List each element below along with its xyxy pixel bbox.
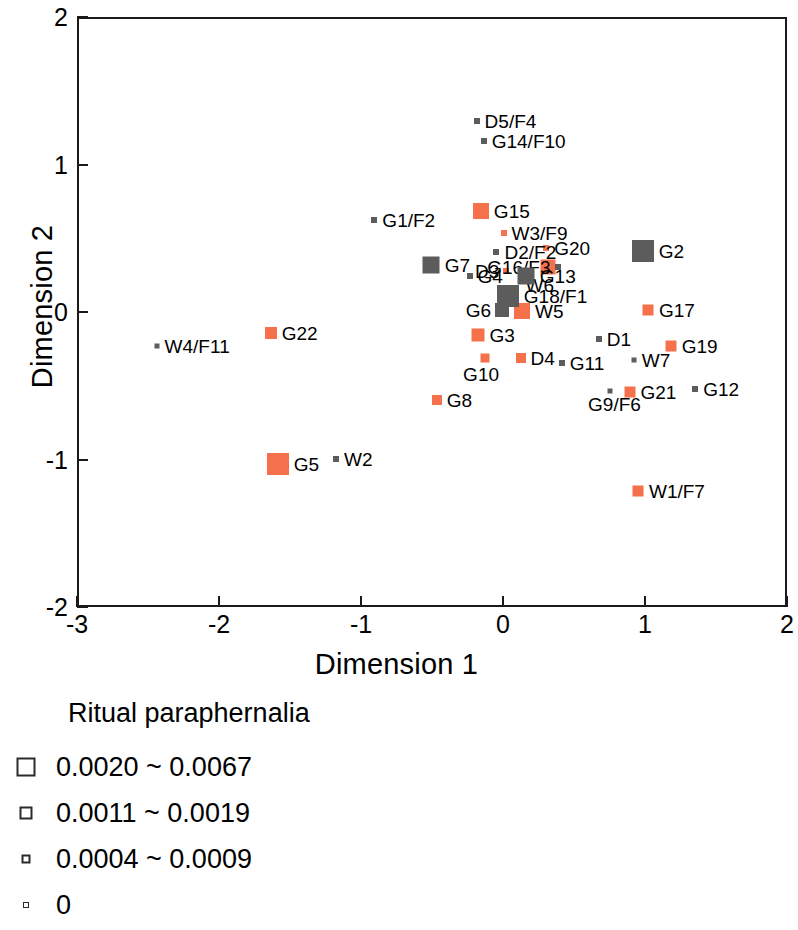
data-point-marker: [518, 267, 535, 284]
data-point-label: D1: [607, 330, 631, 349]
data-point-label: G17: [659, 300, 695, 319]
legend-swatch-square-icon: [22, 855, 31, 864]
legend-item-label: 0.0004 ~ 0.0009: [56, 846, 252, 873]
data-point-marker: [559, 360, 565, 366]
legend-item[interactable]: 0.0020 ~ 0.0067: [0, 744, 400, 790]
legend-item-label: 0: [56, 892, 71, 919]
data-point-marker: [516, 353, 526, 363]
data-point-label: G8: [447, 390, 472, 409]
y-axis-title: Dimension 2: [26, 157, 59, 457]
legend-swatch-square-icon: [20, 807, 33, 820]
data-point-label: G2: [659, 241, 684, 260]
data-point-marker: [632, 240, 654, 262]
data-point-label: G1/F2: [382, 210, 435, 229]
data-point-label: G11: [570, 353, 605, 372]
data-point-marker: [265, 327, 277, 339]
data-point-label: D4: [531, 349, 555, 368]
data-point-label: G20: [554, 238, 590, 257]
x-tick-label: 2: [757, 612, 798, 637]
x-tick: [786, 596, 788, 607]
data-point-marker: [432, 395, 442, 405]
legend-item-label: 0.0011 ~ 0.0019: [56, 800, 250, 827]
data-point-marker: [333, 456, 339, 462]
data-point-marker: [371, 217, 377, 223]
data-point-marker: [596, 336, 602, 342]
data-point-marker: [423, 257, 440, 274]
data-point-marker: [155, 344, 160, 349]
data-point-label: G22: [282, 324, 318, 343]
data-point-marker: [501, 230, 507, 236]
legend-item[interactable]: 0.0004 ~ 0.0009: [0, 836, 400, 882]
data-point-label: G21: [640, 383, 676, 402]
data-point-label: G5: [294, 455, 319, 474]
data-point-label: G9/F6: [588, 395, 641, 414]
legend-item-label: 0.0020 ~ 0.0067: [56, 754, 252, 781]
legend-swatch-cell: [8, 882, 44, 928]
data-point-label: W7: [642, 350, 671, 369]
x-tick: [502, 596, 504, 607]
data-point-marker: [692, 386, 698, 392]
legend-swatch-cell: [8, 836, 44, 882]
data-point-label: G13: [540, 266, 576, 285]
data-point-marker: [267, 453, 289, 475]
data-point-label: D5/F4: [485, 111, 537, 130]
data-point-marker: [474, 118, 480, 124]
legend-title: Ritual paraphernalia: [68, 700, 310, 727]
x-axis-title: Dimension 1: [0, 648, 793, 681]
x-tick: [644, 596, 646, 607]
data-point-label: W4/F11: [165, 337, 230, 356]
data-point-label: G6: [466, 300, 491, 319]
plot-area: G15W3/F9G20D3W6W5G3G10D4G8G22G5G17G19G21…: [77, 17, 787, 607]
legend-swatch-square-icon: [23, 902, 29, 908]
x-tick: [360, 596, 362, 607]
data-point-marker: [643, 304, 654, 315]
data-point-label: G18/F1: [524, 287, 587, 306]
data-point-label: G15: [494, 201, 530, 220]
x-tick-label: -2: [189, 612, 249, 637]
x-tick-label: 1: [615, 612, 675, 637]
data-point-label: G12: [703, 380, 739, 399]
y-tick: [77, 311, 88, 313]
data-point-marker: [493, 249, 499, 255]
data-point-marker: [608, 388, 613, 393]
legend-swatch-cell: [8, 744, 44, 790]
data-point-label: G3: [490, 325, 515, 344]
data-point-marker: [472, 328, 485, 341]
data-point-marker: [633, 486, 644, 497]
y-tick: [77, 164, 88, 166]
data-point-label: W1/F7: [649, 482, 705, 501]
legend-item[interactable]: 0.0011 ~ 0.0019: [0, 790, 400, 836]
y-tick-label: 2: [8, 5, 68, 30]
legend-swatch-square-icon: [17, 758, 36, 777]
data-point-label: G10: [463, 364, 499, 383]
legend-swatch-cell: [8, 790, 44, 836]
data-point-marker: [481, 138, 487, 144]
y-tick-label: -2: [8, 595, 68, 620]
data-point-marker: [632, 357, 637, 362]
data-point-label: G14/F10: [492, 132, 566, 151]
data-point-marker: [481, 354, 490, 363]
data-point-label: G19: [682, 337, 718, 356]
data-point-label: G4: [478, 266, 503, 285]
legend-item[interactable]: 0: [0, 882, 400, 928]
data-point-marker: [473, 203, 489, 219]
x-tick: [218, 596, 220, 607]
y-tick: [77, 606, 88, 608]
data-point-marker: [495, 303, 509, 317]
data-point-label: W2: [344, 449, 373, 468]
y-tick: [77, 16, 88, 18]
data-point-marker: [467, 273, 473, 279]
x-tick-label: 0: [473, 612, 533, 637]
x-tick-label: -1: [331, 612, 391, 637]
y-tick: [77, 459, 88, 461]
